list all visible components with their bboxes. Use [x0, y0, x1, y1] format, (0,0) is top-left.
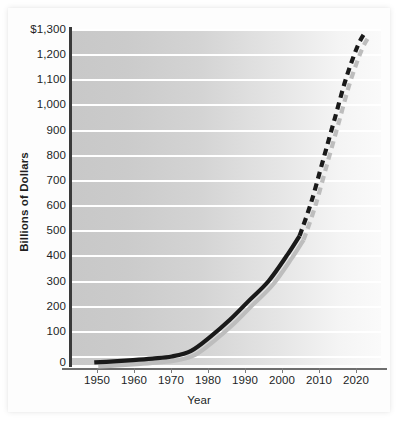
y-tick-label: 0 [4, 356, 66, 368]
y-tick-label: 1,200 [4, 48, 66, 60]
y-tick-label: 500 [4, 224, 66, 236]
x-tick-mark [319, 368, 320, 373]
gridline [71, 230, 381, 232]
y-tick-label: 900 [4, 124, 66, 136]
x-tick-mark [245, 368, 246, 373]
chart-page: $1,300 1,200 1,100 1,000 900 800 700 600… [0, 0, 398, 426]
y-tick-label: 100 [4, 325, 66, 337]
x-tick-mark [282, 368, 283, 373]
y-tick-label: $1,300 [4, 23, 66, 35]
gridline [71, 79, 381, 81]
y-tick-label: 200 [4, 300, 66, 312]
gridline [71, 356, 381, 358]
gridline [71, 205, 381, 207]
y-tick-label: 400 [4, 249, 66, 261]
gridline [71, 306, 381, 308]
plot-area [71, 29, 381, 365]
y-tick-label: 300 [4, 275, 66, 287]
gridline [71, 281, 381, 283]
gridline [71, 130, 381, 132]
y-tick-label: 700 [4, 174, 66, 186]
y-axis-ticks: $1,300 1,200 1,100 1,000 900 800 700 600… [0, 0, 66, 426]
y-tick-label: 1,100 [4, 73, 66, 85]
y-axis-title: Billions of Dollars [18, 142, 30, 262]
x-tick-mark [134, 368, 135, 373]
gridline [71, 104, 381, 106]
y-axis-line [69, 27, 72, 367]
gridline [71, 255, 381, 257]
gridline [71, 155, 381, 157]
gridline [71, 29, 381, 31]
x-tick-mark [356, 368, 357, 373]
y-tick-label: 600 [4, 199, 66, 211]
gridline [71, 331, 381, 333]
gridline [71, 180, 381, 182]
x-tick-mark [208, 368, 209, 373]
x-tick-mark [97, 368, 98, 373]
y-tick-label: 800 [4, 149, 66, 161]
y-tick-label: 1,000 [4, 98, 66, 110]
gridline [71, 54, 381, 56]
x-axis-title: Year [0, 394, 398, 406]
x-tick-label: 2020 [330, 374, 382, 386]
x-axis-line [62, 368, 387, 370]
x-tick-mark [171, 368, 172, 373]
